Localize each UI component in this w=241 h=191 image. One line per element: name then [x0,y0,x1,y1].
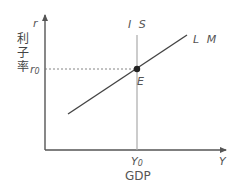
y-axis-label: 利子率 [16,32,29,74]
y0-subscript: 0 [138,159,143,168]
x-axis-symbol: Y [219,156,226,167]
y-axis-symbol: r [33,18,38,29]
is-curve-label: I S [128,19,148,30]
r0-tick-label: r0 [30,64,40,76]
x-axis-label: GDP [125,170,151,182]
equilibrium-label: E [137,76,144,87]
is-lm-diagram: 利子率 r r0 I S L M E Y0 Y GDP [0,0,241,191]
r0-subscript: 0 [35,67,40,76]
lm-curve [68,35,187,114]
y0-tick-label: Y0 [131,156,143,168]
y0-symbol: Y [131,155,138,168]
equilibrium-point [134,66,140,72]
lm-curve-label: L M [193,34,218,45]
